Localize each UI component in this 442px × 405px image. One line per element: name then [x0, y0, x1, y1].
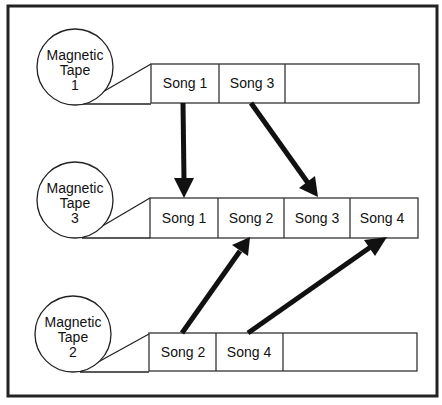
- tape-2-group: Magnetic Tape 2 Song 2 Song 4: [35, 296, 417, 372]
- tape-2-label-line3: 2: [69, 344, 77, 360]
- arrow-shaft: [251, 103, 308, 183]
- tape-1-group: Magnetic Tape 1 Song 1 Song 3: [37, 29, 419, 105]
- tape-3-label-line2: Tape: [60, 195, 91, 211]
- arrow-head-icon: [174, 178, 194, 198]
- arrow-shaft: [248, 246, 372, 333]
- tape-3-segment-song-2: Song 2: [229, 210, 274, 226]
- arrow-tape1-song1-to-tape3-song1: [174, 103, 194, 198]
- tape-1-segment-song-1: Song 1: [163, 75, 208, 91]
- arrow-tape2-song2-to-tape3-song2: [182, 237, 250, 333]
- tape-3-segment-song-1: Song 1: [162, 210, 207, 226]
- arrow-shaft: [183, 103, 184, 180]
- tape-2-label-line2: Tape: [58, 329, 89, 345]
- tape-2-segment-song-4: Song 4: [227, 344, 272, 360]
- tape-2-segment-song-2: Song 2: [161, 344, 206, 360]
- tape-1-segment-song-3: Song 3: [230, 75, 275, 91]
- tape-2-label-line1: Magnetic: [45, 314, 102, 330]
- arrow-tape2-song4-to-tape3-song4: [248, 237, 387, 333]
- tape-3-label-line3: 3: [71, 210, 79, 226]
- tape-merge-diagram: Magnetic Tape 1 Song 1 Song 3 Magnetic T…: [0, 0, 442, 405]
- tape-3-segment-song-4: Song 4: [360, 210, 405, 226]
- tape-3-label-line1: Magnetic: [47, 180, 104, 196]
- arrow-tape1-song3-to-tape3-song3: [251, 103, 318, 197]
- tape-1-label-line1: Magnetic: [47, 47, 104, 63]
- tape-3-segment-song-3: Song 3: [295, 210, 340, 226]
- arrow-shaft: [182, 251, 240, 333]
- tape-1-label-line2: Tape: [60, 62, 91, 78]
- tape-3-group: Magnetic Tape 3 Song 1 Song 2 Song 3 Son…: [37, 162, 418, 238]
- arrow-head-icon: [299, 176, 318, 197]
- tape-1-label-line3: 1: [71, 77, 79, 93]
